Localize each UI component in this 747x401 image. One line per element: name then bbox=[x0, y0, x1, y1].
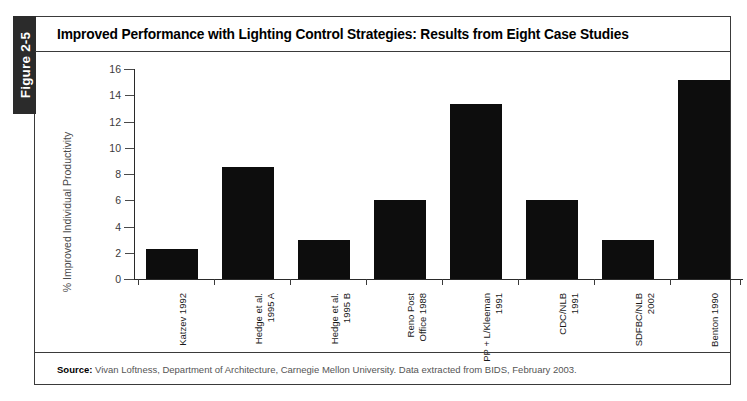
source-label: Source: bbox=[57, 364, 92, 375]
x-axis-tick bbox=[442, 279, 443, 285]
x-axis-tick bbox=[290, 279, 291, 285]
y-axis-tick-label: 4 bbox=[115, 221, 121, 233]
bar bbox=[222, 167, 274, 279]
bar bbox=[678, 80, 730, 280]
figure-number-tab: Figure 2-5 bbox=[13, 16, 36, 114]
figure-number-label: Figure 2-5 bbox=[17, 32, 32, 99]
y-axis-tick bbox=[124, 122, 134, 123]
x-axis-line bbox=[134, 279, 743, 280]
x-axis-tick bbox=[740, 279, 741, 285]
y-axis-tick bbox=[125, 200, 134, 201]
x-axis-tick bbox=[214, 279, 215, 285]
source-row: Source: Vivan Loftness, Department of Ar… bbox=[35, 352, 730, 385]
bar bbox=[602, 240, 654, 279]
bar bbox=[450, 104, 502, 279]
y-axis-line bbox=[134, 69, 135, 280]
y-axis-label: % Improved Individual Productivity bbox=[61, 112, 73, 312]
bar bbox=[146, 249, 198, 279]
page-title: Improved Performance with Lighting Contr… bbox=[57, 26, 629, 42]
y-axis-tick-label: 8 bbox=[115, 168, 121, 180]
source-body: Vivan Loftness, Department of Architectu… bbox=[95, 364, 577, 375]
figure-panel: Figure 2-5 Improved Performance with Lig… bbox=[0, 0, 747, 401]
y-axis-tick-label: 16 bbox=[109, 63, 121, 75]
y-axis-tick-label: 12 bbox=[109, 116, 121, 128]
y-axis-tick bbox=[125, 148, 134, 149]
bar bbox=[526, 200, 578, 279]
y-axis-tick-label: 0 bbox=[115, 273, 121, 285]
y-axis-tick bbox=[124, 174, 134, 175]
x-axis-tick bbox=[670, 279, 671, 285]
x-axis-tick bbox=[518, 279, 519, 285]
y-axis-tick-label: 2 bbox=[115, 247, 121, 259]
y-axis-tick bbox=[124, 227, 134, 228]
bar bbox=[298, 240, 350, 279]
chart-canvas: % Improved Individual Productivity 02468… bbox=[35, 52, 730, 352]
x-axis-tick bbox=[594, 279, 595, 285]
bar bbox=[374, 200, 426, 279]
y-axis-tick bbox=[125, 95, 134, 96]
source-note: Source: Vivan Loftness, Department of Ar… bbox=[57, 364, 577, 375]
y-axis-tick bbox=[124, 69, 134, 70]
figure-title-row: Improved Performance with Lighting Contr… bbox=[35, 17, 730, 52]
x-axis-tick bbox=[138, 279, 139, 285]
y-axis-tick-label: 6 bbox=[115, 194, 121, 206]
y-axis-tick bbox=[125, 253, 134, 254]
x-axis-tick bbox=[366, 279, 367, 285]
y-axis-tick bbox=[124, 279, 134, 280]
plot-area: 0246810121416Katzev 1992Hedge et al.1995… bbox=[134, 69, 742, 279]
y-axis-tick-label: 14 bbox=[109, 89, 121, 101]
y-axis-tick-label: 10 bbox=[109, 142, 121, 154]
